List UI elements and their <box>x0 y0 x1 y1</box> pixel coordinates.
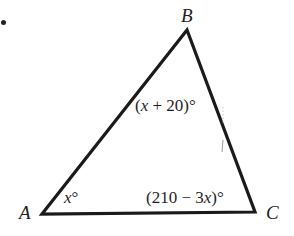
vertex-label-c: C <box>266 203 279 222</box>
angle-a-variable: x <box>64 188 72 207</box>
vertex-label-a: A <box>19 203 31 222</box>
angle-label-a: x° <box>64 189 78 206</box>
angle-label-c: (210 − 3x)° <box>146 189 224 206</box>
tick-mark-bc-lower <box>222 140 223 152</box>
angle-c-suffix: )° <box>211 188 223 207</box>
angle-b-suffix: + 20)° <box>148 96 196 115</box>
angle-a-suffix: ° <box>72 188 79 207</box>
vertex-label-b: B <box>181 6 193 25</box>
angle-label-b: (x + 20)° <box>135 97 196 114</box>
angle-c-prefix: (210 − 3 <box>146 188 204 207</box>
